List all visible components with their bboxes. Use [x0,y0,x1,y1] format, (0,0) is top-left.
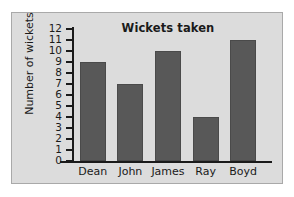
x-axis-label: Boyd [224,165,262,178]
y-axis-tick [66,149,74,151]
bar [230,40,256,161]
y-axis-tick [66,105,74,107]
bar [117,84,143,161]
y-axis-tick-label: 1 [34,144,62,154]
y-axis-tick [66,28,74,30]
x-axis-label: Dean [74,165,112,178]
y-axis-tick [66,116,74,118]
x-axis-label: James [149,165,187,178]
y-axis-tick-label: 2 [34,133,62,143]
plot-area [74,29,262,161]
y-axis-tick [66,160,74,162]
y-axis-tick-label: 10 [34,45,62,55]
chart-panel: Wickets taken Number of wickets 12111098… [11,12,283,184]
y-axis-tick-label: 3 [34,122,62,132]
y-axis-tick-label: 8 [34,67,62,77]
y-axis-tick [66,83,74,85]
y-axis-tick-label: 6 [34,89,62,99]
y-axis-tick [66,39,74,41]
y-axis-tick-label: 9 [34,56,62,66]
bar [80,62,106,161]
bar [155,51,181,161]
x-axis-line [60,161,272,163]
y-axis-tick-label: 11 [34,34,62,44]
y-axis-tick [66,61,74,63]
y-axis-tick-label: 5 [34,100,62,110]
y-axis-tick-label: 7 [34,78,62,88]
x-axis-label: John [112,165,150,178]
y-axis-tick [66,72,74,74]
y-axis-tick [66,138,74,140]
x-axis-label: Ray [187,165,225,178]
y-axis-tick-label: 12 [34,23,62,33]
y-axis-tick [66,127,74,129]
y-axis-tick [66,94,74,96]
y-axis-tick-label: 4 [34,111,62,121]
y-axis-tick [66,50,74,52]
bar [193,117,219,161]
y-axis-tick-label: 0 [34,155,62,165]
